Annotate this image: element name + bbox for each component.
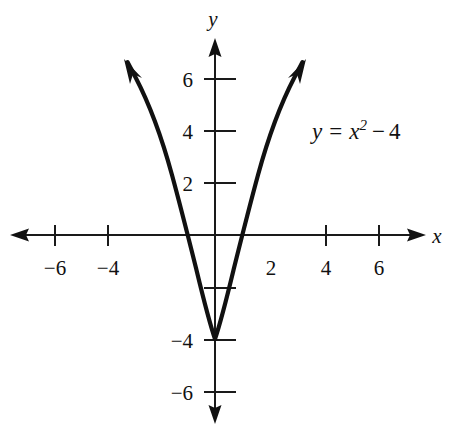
x-tick-label-pos2: 2 — [266, 256, 277, 280]
equation-minus: − — [372, 119, 385, 144]
x-tick-label-pos6: 6 — [374, 256, 385, 280]
x-tick-label-neg4: −4 — [97, 256, 120, 280]
equation-equals: = — [329, 119, 342, 144]
x-tick-label-pos4: 4 — [321, 256, 332, 280]
y-tick-label-pos4: 4 — [183, 120, 194, 144]
x-tick-label-neg6: −6 — [44, 256, 66, 280]
equation-constant: 4 — [389, 119, 401, 144]
equation-base: x — [348, 119, 360, 144]
y-tick-label-neg4: −4 — [171, 329, 194, 353]
equation-lhs: y — [310, 119, 323, 144]
y-tick-label-neg6: −6 — [171, 381, 193, 405]
equation-text: y=x2−4 — [310, 117, 401, 144]
y-tick-label-pos2: 2 — [183, 172, 194, 196]
equation-annotation: y=x2−4 — [310, 117, 401, 144]
x-axis-label: x — [431, 224, 442, 248]
y-tick-label-pos6: 6 — [183, 68, 194, 92]
coordinate-plane-svg: −6 −4 2 4 6 6 4 2 −4 −6 x y y=x2−4 — [0, 0, 452, 436]
equation-exponent: 2 — [359, 117, 367, 133]
graph-figure: −6 −4 2 4 6 6 4 2 −4 −6 x y y=x2−4 — [0, 0, 452, 436]
y-axis-label: y — [206, 7, 218, 31]
